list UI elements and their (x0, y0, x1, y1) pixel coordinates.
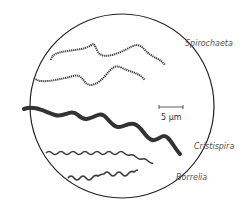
microscope-field-diagram: 5 μm Spirochaeta Cristispira Borrelia (0, 0, 246, 208)
spirochaeta-organism-2 (34, 66, 145, 84)
label-spirochaeta: Spirochaeta (185, 39, 233, 48)
cristispira-organism (24, 108, 180, 154)
spirochaeta-organism-1 (51, 44, 165, 65)
scale-bar: 5 μm (159, 105, 183, 122)
label-cristispira: Cristispira (194, 142, 234, 151)
borrelia-organism-1 (46, 152, 153, 164)
label-borrelia: Borrelia (176, 173, 207, 182)
borrelia-organism-2 (68, 170, 138, 180)
scale-bar-label: 5 μm (161, 113, 182, 122)
